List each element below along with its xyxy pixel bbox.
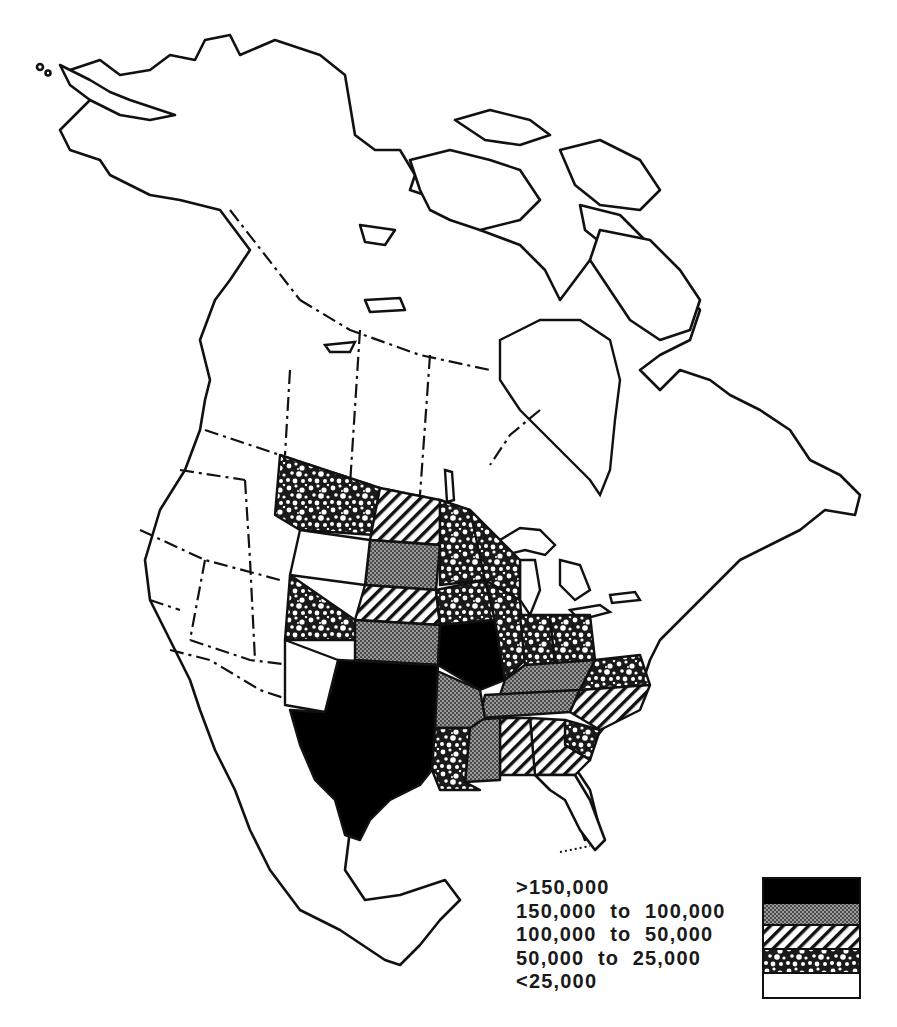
legend-swatches: [762, 877, 861, 999]
florida-keys: [560, 846, 590, 852]
arctic-island: [455, 110, 550, 145]
arctic-island: [560, 140, 660, 210]
state-nebraska: [355, 585, 440, 625]
north-america-choropleth-map: [0, 0, 897, 1027]
legend-swatch-stipple: [764, 950, 859, 973]
arctic-island: [365, 298, 405, 312]
legend-label-50000-25000: 50,000 to 25,000: [516, 947, 726, 971]
legend-label-100000-50000: 100,000 to 50,000: [516, 923, 726, 947]
lake-ontario: [610, 592, 640, 603]
florida: [535, 775, 605, 850]
great-slave-lake: [325, 342, 355, 352]
legend-label-150000-100000: 150,000 to 100,000: [516, 900, 726, 924]
lake-winnipeg: [445, 470, 454, 502]
aleutian-island: [46, 71, 51, 76]
state-kansas: [355, 620, 440, 665]
legend-label-over-150000: >150,000: [516, 876, 726, 900]
legend-swatch-diagonal-hatch: [764, 926, 859, 948]
state-ohio: [550, 615, 595, 665]
legend-swatch-white: [764, 974, 859, 997]
aleutian-island: [37, 64, 43, 70]
legend-swatch-black: [764, 879, 859, 904]
state-wyoming: [290, 530, 370, 585]
legend-swatch-stack: [764, 879, 859, 997]
legend: >150,000 150,000 to 100,000 100,000 to 5…: [516, 876, 726, 994]
legend-swatch-crosshatch: [764, 904, 859, 925]
legend-label-under-25000: <25,000: [516, 970, 726, 994]
state-south-dakota: [365, 540, 440, 590]
state-alabama: [500, 718, 535, 775]
